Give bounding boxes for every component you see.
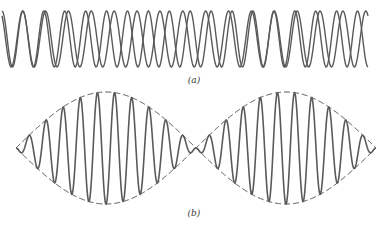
panel-b-beat-pattern	[16, 92, 376, 204]
panel-a-superposed-waves	[2, 11, 368, 67]
panel-a-label: (a)	[188, 75, 200, 85]
panel-b-label: (b)	[188, 208, 201, 218]
envelope-upper	[16, 92, 376, 148]
beats-diagram	[0, 0, 388, 231]
beat-waveform	[16, 93, 376, 204]
